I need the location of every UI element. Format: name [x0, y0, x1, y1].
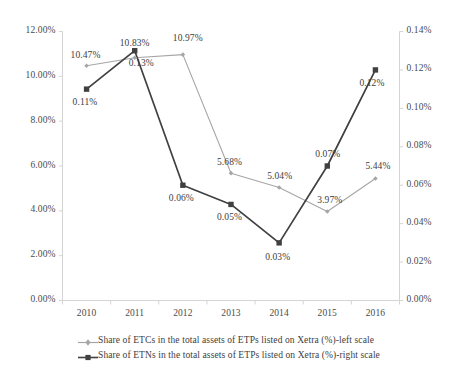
y-axis-right-tick-label: 0.12%	[407, 63, 432, 73]
chart-container: 0.00%2.00%4.00%6.00%8.00%10.00%12.00% 0.…	[0, 0, 474, 374]
y-axis-right-tick-label: 0.14%	[407, 25, 432, 35]
x-axis-tick-label: 2012	[159, 308, 207, 318]
y-axis-left-tick-label: 6.00%	[0, 160, 56, 170]
data-point-marker-etc	[277, 185, 282, 190]
y-axis-left-tick-label: 4.00%	[0, 204, 56, 214]
y-axis-right-tick-label: 0.10%	[407, 102, 432, 112]
data-point-marker-etn	[228, 202, 233, 207]
y-axis-left-tick-label: 8.00%	[0, 115, 56, 125]
y-axis-right-tick-label: 0.04%	[407, 217, 432, 227]
data-point-label-etn: 0.13%	[129, 58, 154, 68]
legend-item-etn[interactable]: Share of ETNs in the total assets of ETP…	[0, 347, 474, 362]
chart-legend: Share of ETCs in the total assets of ETP…	[0, 332, 474, 362]
x-axis-tick-label: 2010	[63, 308, 111, 318]
data-point-label-etc: 10.83%	[120, 38, 150, 48]
legend-marker-diamond-icon	[78, 334, 98, 345]
legend-item-etc[interactable]: Share of ETCs in the total assets of ETP…	[0, 332, 474, 347]
data-point-label-etc: 5.68%	[217, 157, 242, 167]
legend-label-etn: Share of ETNs in the total assets of ETP…	[98, 350, 380, 360]
data-point-marker-etn	[180, 183, 185, 188]
x-axis-tick-label: 2014	[255, 308, 303, 318]
data-point-label-etc: 3.97%	[317, 195, 342, 205]
legend-marker-square-icon	[78, 349, 98, 360]
y-axis-left-tick-label: 2.00%	[0, 249, 56, 259]
x-axis-tick-label: 2015	[303, 308, 351, 318]
data-point-label-etn: 0.11%	[73, 97, 98, 107]
y-axis-left-tick-label: 0.00%	[0, 294, 56, 304]
data-point-marker-etc	[181, 52, 186, 57]
data-point-label-etn: 0.12%	[359, 78, 384, 88]
data-point-marker-etn	[373, 67, 378, 72]
y-axis-left-tick-label: 10.00%	[0, 70, 56, 80]
data-point-label-etc: 5.44%	[365, 161, 390, 171]
legend-label-etc: Share of ETCs in the total assets of ETP…	[98, 335, 374, 345]
data-point-label-etc: 10.47%	[71, 50, 101, 60]
y-axis-right-tick-label: 0.02%	[407, 256, 432, 266]
y-axis-right-tick-label: 0.00%	[407, 294, 432, 304]
y-axis-left-tick-label: 12.00%	[0, 25, 56, 35]
x-axis-tick-label: 2013	[207, 308, 255, 318]
data-point-label-etc: 10.97%	[173, 33, 203, 43]
data-point-label-etn: 0.03%	[265, 252, 290, 262]
data-point-marker-etc	[84, 64, 89, 69]
data-point-label-etn: 0.06%	[169, 193, 194, 203]
data-point-label-etn: 0.07%	[315, 149, 340, 159]
series-line-etc	[87, 55, 376, 212]
data-point-marker-etc	[229, 171, 234, 176]
data-point-marker-etn	[276, 240, 281, 245]
x-axis-tick-label: 2016	[351, 308, 399, 318]
data-point-marker-etn	[132, 48, 137, 53]
y-axis-right-tick-label: 0.06%	[407, 179, 432, 189]
y-axis-right-tick-label: 0.08%	[407, 140, 432, 150]
data-point-label-etc: 5.04%	[267, 171, 292, 181]
x-axis-tick-label: 2011	[111, 308, 159, 318]
data-point-marker-etn	[325, 163, 330, 168]
data-point-label-etn: 0.05%	[217, 212, 242, 222]
data-point-marker-etn	[84, 86, 89, 91]
tick-marks	[59, 32, 403, 305]
